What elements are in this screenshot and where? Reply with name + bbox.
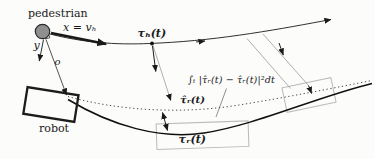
human-trajectory-point-dot: [150, 42, 154, 46]
pedestrian-label: pedestrian: [28, 7, 88, 20]
figure-canvas: pedestrian x = vₕ y o τₕ(t) robot ∫ₜ |τ̂…: [0, 0, 375, 159]
predicted-robot-trajectory-label: τ̂ᵣ(t): [180, 94, 205, 105]
y-axis-label: y: [33, 39, 41, 52]
robot-label: robot: [39, 122, 70, 135]
human-trajectory-label: τₕ(t): [138, 27, 167, 40]
x-axis-label: x = vₕ: [63, 21, 96, 34]
figure-container: pedestrian x = vₕ y o τₕ(t) robot ∫ₜ |τ̂…: [0, 0, 375, 159]
pedestrian-marker: [35, 24, 49, 38]
actual-robot-trajectory-label: τᵣ(t): [179, 133, 206, 146]
integral-cost-label: ∫ₜ |τ̂ᵣ(t) − τ̂ᵣ(t)|²dt: [188, 74, 275, 86]
origin-label: o: [55, 56, 61, 67]
